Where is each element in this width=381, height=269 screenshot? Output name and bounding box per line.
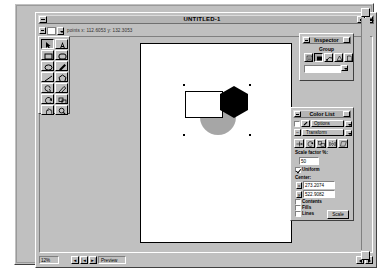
spiral-tool[interactable] — [41, 83, 54, 93]
scale-transform-button[interactable] — [316, 139, 326, 148]
scale-factor-input[interactable]: 50 — [299, 157, 319, 165]
cursor-coordinate-readout: points x: 112.6053 y: 132.3053 — [67, 28, 133, 33]
lines-row: Lines — [295, 211, 314, 217]
unit-swatch[interactable] — [47, 27, 56, 35]
inspector-combo[interactable] — [304, 65, 348, 73]
pointer-tool[interactable] — [41, 39, 54, 49]
text-tool[interactable] — [55, 39, 68, 49]
desktop-vertical-scrollbar[interactable] — [361, 18, 370, 250]
color-list-title: Color List — [301, 111, 343, 117]
center-y-axis-label: y — [296, 191, 302, 198]
page-first-button[interactable]: ◄ — [71, 256, 79, 264]
inspector-system-menu-icon[interactable] — [303, 37, 310, 43]
black-hexagon-shape[interactable] — [219, 86, 249, 118]
uniform-label: Uniform — [302, 167, 320, 173]
knife-tool[interactable] — [55, 83, 68, 93]
inspector-title: Inspector — [310, 37, 343, 43]
transform-button-row — [294, 139, 348, 148]
magnifier-icon[interactable] — [55, 105, 68, 115]
center-x-axis-label: x — [296, 182, 302, 189]
lines-label: Lines — [302, 211, 314, 217]
rounded-rect-tool[interactable] — [55, 50, 68, 60]
uniform-row: Uniform — [295, 167, 320, 173]
move-transform-button[interactable] — [294, 139, 304, 148]
page-title: UNTITLED-1 — [47, 16, 357, 23]
options-checkbox[interactable] — [294, 121, 300, 127]
rotate-transform-button[interactable] — [305, 139, 315, 148]
rotate-tool[interactable] — [41, 94, 54, 104]
center-x-row: x 273.2074 — [296, 181, 335, 189]
options-dropdown-icon[interactable] — [345, 121, 352, 127]
selection-handle-top-right[interactable] — [249, 84, 251, 86]
tool-palette — [38, 36, 70, 114]
color-list-titlebar[interactable]: Color List — [293, 110, 351, 118]
uniform-checkbox[interactable] — [295, 167, 301, 173]
tool-palette-grid — [41, 39, 68, 115]
pen-tool[interactable] — [55, 61, 68, 71]
inspector-combo-dropdown-icon[interactable] — [341, 65, 348, 71]
line-tool[interactable] — [41, 72, 54, 82]
page-next-button[interactable]: ►| — [89, 256, 97, 264]
pencil-icon[interactable] — [301, 120, 310, 127]
selection-handle-bottom-left[interactable] — [183, 134, 185, 136]
scroll-down-button[interactable] — [361, 251, 370, 260]
scroll-up-button[interactable] — [361, 8, 370, 17]
color-list-close-button[interactable] — [343, 111, 350, 117]
object-info-icon[interactable] — [304, 53, 313, 62]
inspector-object-type: Group — [300, 46, 353, 52]
transform-button[interactable]: Transform — [302, 129, 344, 136]
scale-factor-label: Scale factor %: — [295, 150, 328, 156]
color-list-panel: Color List Options – Transform — [290, 107, 354, 221]
apply-scale-button[interactable]: Scale — [327, 210, 349, 219]
preview-toggle[interactable]: Preview — [98, 256, 126, 264]
zoom-level-field[interactable]: 12% — [39, 256, 59, 264]
transform-collapse-button[interactable]: – — [294, 129, 301, 136]
hand-tool[interactable] — [41, 105, 54, 115]
ellipse-tool[interactable] — [41, 61, 54, 71]
options-row: Options — [294, 120, 352, 127]
stroke-inspector-icon[interactable] — [324, 53, 333, 62]
document-titlebar[interactable]: UNTITLED-1 — [38, 15, 374, 24]
selection-handle-bottom-right[interactable] — [249, 134, 251, 136]
color-list-system-menu-icon[interactable] — [294, 111, 301, 117]
center-x-input[interactable]: 273.2074 — [303, 181, 335, 189]
inspector-titlebar[interactable]: Inspector — [302, 36, 351, 44]
reflect-transform-button[interactable] — [327, 139, 337, 148]
lines-checkbox[interactable] — [295, 211, 301, 217]
options-button[interactable]: Options — [311, 120, 344, 127]
transform-row: – Transform — [294, 129, 352, 136]
unit-dropdown-icon[interactable] — [57, 27, 64, 35]
halftone-inspector-icon[interactable] — [334, 53, 343, 62]
layer-inspector-icon[interactable] — [344, 53, 353, 62]
status-bar: 12% ◄ |◄ ►| Preview — [39, 255, 373, 265]
white-rectangle-shape[interactable] — [185, 91, 223, 118]
skew-transform-button[interactable] — [338, 139, 348, 148]
selection-handle-top-left[interactable] — [183, 84, 185, 86]
document-page — [140, 43, 292, 243]
polygon-tool[interactable] — [55, 72, 68, 82]
inspector-combo-value[interactable] — [304, 65, 341, 73]
system-menu-icon[interactable] — [39, 16, 47, 23]
center-y-input[interactable]: 522.9082 — [303, 190, 335, 198]
fill-inspector-icon[interactable] — [314, 53, 323, 62]
center-y-row: y 522.9082 — [296, 190, 335, 198]
scale-tool[interactable] — [55, 94, 68, 104]
page-prev-button[interactable]: |◄ — [80, 256, 88, 264]
rectangle-tool[interactable] — [41, 50, 54, 60]
inspector-close-button[interactable] — [343, 37, 350, 43]
app-root: UNTITLED-1 points x: 112.6053 y: 132.305… — [0, 0, 381, 269]
inspector-icon-row — [304, 53, 353, 62]
transform-dropdown-icon[interactable] — [345, 130, 352, 136]
toolbar-menu-icon[interactable] — [39, 27, 46, 34]
inspector-panel: Inspector Group — [299, 33, 354, 81]
